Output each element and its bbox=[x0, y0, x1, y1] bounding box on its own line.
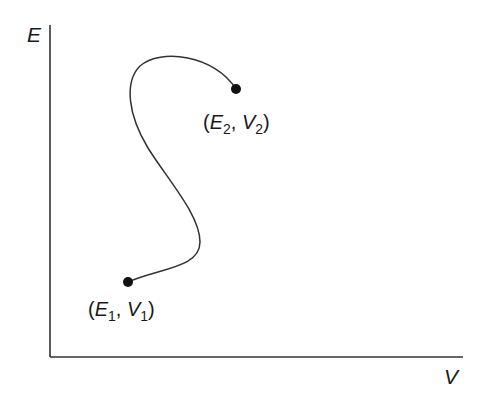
x-axis-label: V bbox=[444, 365, 460, 388]
ev-diagram: E V (E1, V1) (E2, V2) bbox=[0, 0, 485, 393]
point-1-label: (E1, V1) bbox=[88, 298, 155, 324]
y-axis-label: E bbox=[27, 23, 42, 46]
point-2-label: (E2, V2) bbox=[203, 111, 270, 137]
point-2-marker bbox=[231, 84, 241, 94]
process-curve bbox=[128, 56, 236, 282]
point-1-marker bbox=[123, 277, 133, 287]
